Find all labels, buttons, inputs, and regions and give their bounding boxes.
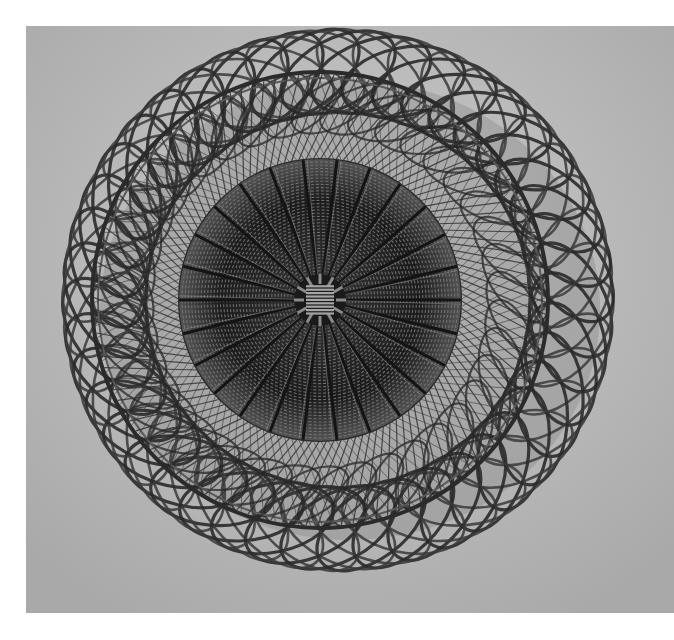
basket-photo (26, 26, 674, 613)
basket-illustration (26, 26, 674, 613)
center-knot (294, 274, 346, 326)
